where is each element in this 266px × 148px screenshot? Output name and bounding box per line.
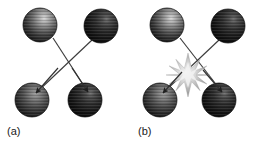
panel-label-a: (a) [7,126,20,137]
panel-b-sphere-bottom-left [143,83,177,117]
figure-canvas [0,0,266,148]
panel-b-sphere-top-right [211,9,245,43]
panel-a-sphere-top-right [84,9,118,43]
panel-b-sphere-top-left [150,8,184,42]
panel-a [15,8,118,117]
panel-b [143,8,245,117]
panel-label-b: (b) [138,126,151,137]
figure-container: (a) (b) [0,0,266,148]
panel-a-arrow-tip-left [36,68,58,93]
panel-a-sphere-top-left [23,8,57,42]
panel-a-sphere-bottom-left [15,83,49,117]
